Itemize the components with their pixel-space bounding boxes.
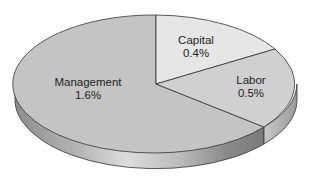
label-management: Management 1.6% [54, 76, 121, 102]
label-capital-name: Capital [178, 34, 214, 47]
label-labor: Labor 0.5% [236, 74, 265, 100]
label-capital: Capital 0.4% [178, 34, 214, 60]
label-labor-value: 0.5% [236, 87, 265, 100]
label-management-value: 1.6% [54, 89, 121, 102]
label-capital-value: 0.4% [178, 47, 214, 60]
label-labor-name: Labor [236, 74, 265, 87]
label-management-name: Management [54, 76, 121, 89]
